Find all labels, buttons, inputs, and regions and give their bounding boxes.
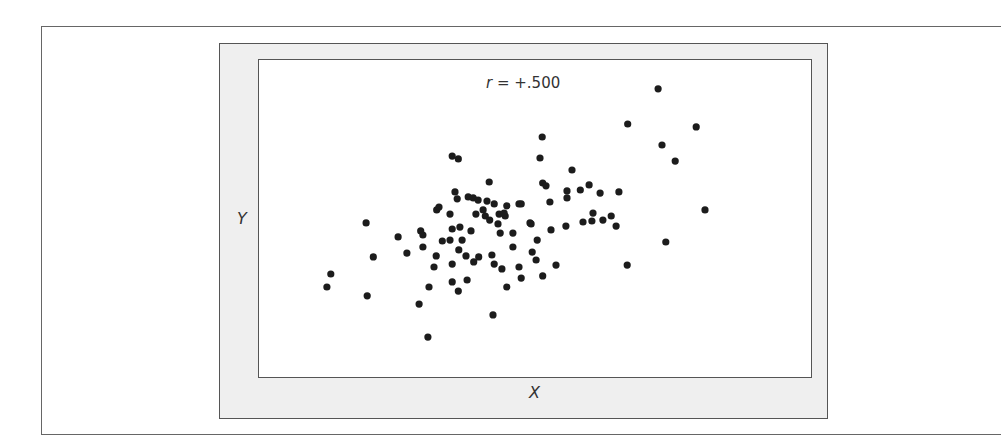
x-axis-label: X	[529, 383, 540, 402]
equals-sign: =	[492, 74, 514, 92]
y-axis-label: Y	[237, 209, 247, 228]
plot-area	[258, 59, 812, 378]
correlation-value: +.500	[514, 74, 560, 92]
correlation-annotation: r = +.500	[486, 74, 560, 92]
